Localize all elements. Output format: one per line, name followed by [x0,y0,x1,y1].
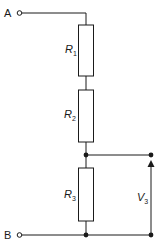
label-b: B [4,229,11,241]
label-r3: R3 [64,188,76,202]
label-r2: R2 [64,108,76,122]
circuit-diagram: A B R1 R2 R3 V3 [0,0,161,247]
node-dot-output-top [149,153,154,158]
node-dot-output-bottom [149,233,154,238]
circuit-svg: A B R1 R2 R3 V3 [0,0,161,247]
junction-dot-mid [84,153,89,158]
resistor-r3 [79,168,94,221]
arrow-up-icon [148,160,155,167]
terminal-a [17,11,22,16]
resistor-r1 [79,25,94,76]
label-v3: V3 [137,191,148,205]
resistor-r2 [79,90,94,142]
terminal-b [17,233,22,238]
label-a: A [4,7,12,19]
label-r1: R1 [65,43,77,57]
junction-dot-bottom [84,233,89,238]
